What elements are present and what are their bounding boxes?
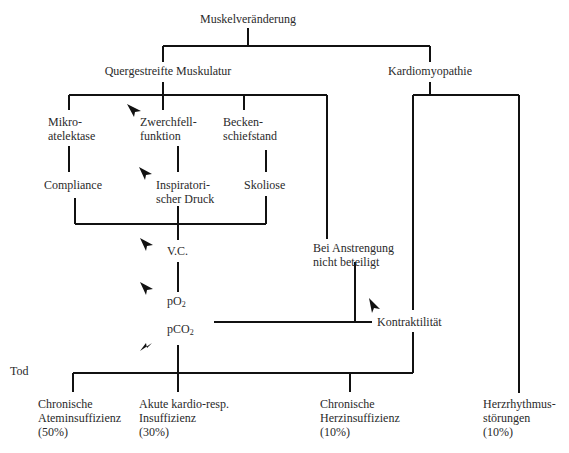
compliance-node: Compliance bbox=[44, 178, 102, 192]
mikroatelektase-node: Mikro- atelektase bbox=[48, 115, 95, 143]
skoliose-node: Skoliose bbox=[244, 178, 285, 192]
death-label: Tod bbox=[10, 364, 29, 378]
down-arrow-inspiratorisch bbox=[139, 167, 152, 180]
cardiomyopathy-node: Kardiomyopathie bbox=[385, 64, 475, 78]
vc-node: V.C. bbox=[167, 244, 188, 258]
po2-node: pO2 bbox=[167, 294, 186, 308]
inspiratory-pressure-node: Inspiratori- scher Druck bbox=[156, 178, 214, 206]
beckenschiefstand-node: Becken- schiefstand bbox=[223, 115, 277, 143]
outcome-chronic-respiratory: Chronische Ateminsuffizienz (50%) bbox=[38, 397, 121, 439]
down-arrow-po2 bbox=[140, 282, 153, 295]
exertion-node: Bei Anstrengung nicht beteiligt bbox=[313, 241, 394, 269]
diagram-connectors bbox=[0, 0, 569, 453]
outcome-chronic-heart: Chronische Herzinsuffizienz (10%) bbox=[320, 397, 400, 439]
zwerchfell-node: Zwerchfell- funktion bbox=[140, 115, 197, 143]
skeletal-muscle-node: Quergestreifte Muskulatur bbox=[98, 64, 238, 78]
contractility-node: Kontraktilität bbox=[377, 315, 442, 329]
up-arrow-pco2 bbox=[140, 343, 152, 351]
outcome-arrhythmia: Herzrhythmus- störungen (10%) bbox=[483, 397, 556, 439]
outcome-acute-cardiorespiratory: Akute kardio-resp. Insuffizienz (30%) bbox=[139, 397, 229, 439]
root-node: Muskelveränderung bbox=[188, 12, 308, 26]
down-arrow-vc bbox=[140, 238, 153, 251]
down-arrow-zwerchfell bbox=[127, 104, 141, 117]
down-arrow-kontraktilitaet bbox=[369, 298, 380, 313]
pco2-node: pCO2 bbox=[167, 322, 194, 336]
